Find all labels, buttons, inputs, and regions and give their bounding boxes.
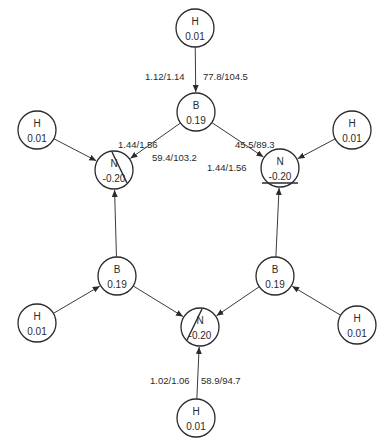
atom-b_top: B0.19: [177, 93, 215, 131]
bond-label-bh_top_order: 1.12/1.14: [145, 71, 185, 82]
bond-h_ll-b_left: [53, 286, 99, 313]
bond-label-nh_bottom_energy: 58.9/94.7: [201, 375, 241, 386]
bond-label-nh_bottom_order: 1.02/1.06: [150, 375, 190, 386]
atom-charge: 0.19: [265, 279, 285, 290]
atom-element: N: [110, 158, 117, 169]
atom-element: B: [193, 100, 200, 111]
atom-charge: 0.01: [186, 421, 206, 432]
atom-h_ll: H0.01: [18, 304, 56, 342]
atom-charge: 0.19: [107, 279, 127, 290]
bond-h_top-b_top: [195, 47, 196, 92]
atom-h_top: H0.01: [176, 9, 214, 47]
atom-element: H: [191, 16, 198, 27]
atom-n_right: N-0.20: [261, 149, 299, 187]
bond-h_lr-b_right: [292, 286, 341, 315]
atom-element: H: [33, 118, 40, 129]
bond-label-bn_right_energy: 45.5/89.3: [235, 139, 275, 150]
bond-b_right-n_right: [276, 188, 279, 257]
bond-label-bh_top_energy: 77.8/104.5: [203, 71, 248, 82]
atom-element: B: [114, 264, 121, 275]
atom-element: N: [276, 156, 283, 167]
atom-element: H: [348, 118, 355, 129]
atom-h_ur: H0.01: [333, 111, 371, 149]
bond-b_right-n_bottom: [217, 287, 260, 316]
atom-element: B: [272, 264, 279, 275]
atom-n_left: N-0.20: [95, 151, 133, 189]
bond-label-bn_left_order: 1.44/1.56: [118, 139, 158, 150]
bond-h_ul-n_left: [54, 139, 96, 161]
borazine-charge-diagram: H0.01B0.19N-0.20N-0.20H0.01H0.01B0.19B0.…: [0, 0, 388, 446]
bond-label-bn_right_order: 1.44/1.56: [207, 162, 247, 173]
atom-element: H: [192, 406, 199, 417]
bond-label-bn_left_energy: 59.4/103.2: [152, 152, 197, 163]
atom-h_bottom: H0.01: [177, 399, 215, 437]
atom-charge: -0.20: [189, 330, 212, 341]
atom-n_bottom: N-0.20: [181, 308, 219, 346]
atoms: H0.01B0.19N-0.20N-0.20H0.01H0.01B0.19B0.…: [18, 9, 376, 437]
bond-h_ur-n_right: [298, 139, 336, 159]
atom-charge: 0.01: [347, 328, 367, 339]
bond-h_bottom-n_bottom: [197, 347, 199, 399]
atom-charge: 0.01: [27, 133, 47, 144]
bond-b_left-n_left: [115, 190, 117, 257]
atom-charge: 0.01: [27, 326, 47, 337]
atom-element: H: [353, 313, 360, 324]
atom-b_right: B0.19: [256, 257, 294, 295]
atom-element: N: [196, 315, 203, 326]
atom-charge: -0.20: [269, 171, 292, 182]
atom-b_left: B0.19: [98, 257, 136, 295]
atom-element: H: [33, 311, 40, 322]
atom-h_lr: H0.01: [338, 306, 376, 344]
atom-charge: 0.01: [185, 31, 205, 42]
bond-b_left-n_bottom: [133, 286, 183, 317]
atom-charge: 0.19: [186, 115, 206, 126]
atom-h_ul: H0.01: [18, 111, 56, 149]
atom-charge: 0.01: [342, 133, 362, 144]
